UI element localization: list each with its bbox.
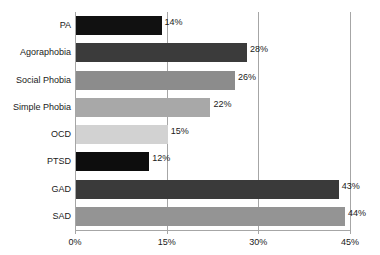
- category-label: PA: [60, 20, 71, 31]
- bar-value-label: 12%: [152, 153, 170, 164]
- bar: [76, 125, 168, 144]
- bar-value-label: 26%: [238, 72, 256, 83]
- bar: [76, 43, 247, 62]
- category-label-row: SAD: [0, 203, 71, 230]
- x-tick-label: 15%: [158, 237, 176, 248]
- bar-row: 43%: [76, 176, 351, 203]
- bars-layer: 14%28%26%22%15%12%43%44%: [76, 12, 351, 230]
- category-label-row: PA: [0, 12, 71, 39]
- category-label-row: GAD: [0, 176, 71, 203]
- category-label-row: Agoraphobia: [0, 39, 71, 66]
- bar-row: 12%: [76, 148, 351, 175]
- bar-row: 44%: [76, 203, 351, 230]
- category-label: Agoraphobia: [20, 47, 71, 58]
- bar-row: 22%: [76, 94, 351, 121]
- bar-row: 15%: [76, 121, 351, 148]
- bar-value-label: 14%: [165, 17, 183, 28]
- category-label-row: Simple Phobia: [0, 94, 71, 121]
- bar-row: 14%: [76, 12, 351, 39]
- category-label: Social Phobia: [16, 75, 71, 86]
- category-axis-labels: PAAgoraphobiaSocial PhobiaSimple PhobiaO…: [0, 12, 71, 230]
- bar-value-label: 28%: [250, 44, 268, 55]
- bar-row: 28%: [76, 39, 351, 66]
- bar-value-label: 22%: [213, 99, 231, 110]
- bar: [76, 16, 162, 35]
- bar: [76, 152, 149, 171]
- bar: [76, 180, 339, 199]
- x-tick-mark: [167, 230, 168, 234]
- x-tick-mark: [75, 230, 76, 234]
- x-tick-label: 30%: [249, 237, 267, 248]
- x-tick-label: 45%: [341, 237, 359, 248]
- x-tick-mark: [258, 230, 259, 234]
- x-tick-label: 0%: [68, 237, 81, 248]
- category-label-row: OCD: [0, 121, 71, 148]
- category-label: SAD: [52, 211, 71, 222]
- bar: [76, 71, 235, 90]
- bar-row: 26%: [76, 67, 351, 94]
- bar: [76, 207, 345, 226]
- category-label: GAD: [51, 184, 71, 195]
- bar-value-label: 15%: [171, 126, 189, 137]
- category-label: OCD: [51, 129, 71, 140]
- bar-value-label: 44%: [348, 208, 366, 219]
- category-label-row: Social Phobia: [0, 67, 71, 94]
- bar: [76, 98, 210, 117]
- x-tick-mark: [350, 230, 351, 234]
- bar-value-label: 43%: [342, 181, 360, 192]
- category-label: Simple Phobia: [13, 102, 71, 113]
- category-label-row: PTSD: [0, 148, 71, 175]
- bar-chart: PAAgoraphobiaSocial PhobiaSimple PhobiaO…: [0, 0, 380, 255]
- category-label: PTSD: [47, 156, 71, 167]
- x-axis-line: [75, 230, 351, 231]
